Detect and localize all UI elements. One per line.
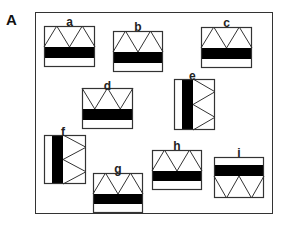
tile-label-b: b [134, 21, 141, 33]
tile-h [152, 150, 202, 190]
tile-label-f: f [61, 126, 65, 138]
tile-e [174, 79, 215, 130]
tile-i [214, 157, 264, 198]
tile-pattern-icon [214, 157, 264, 198]
tile-d [82, 88, 133, 129]
tile-pattern-icon [82, 88, 133, 129]
tile-pattern-icon [201, 27, 252, 68]
tile-a [44, 26, 95, 67]
tile-label-d: d [104, 80, 111, 92]
tile-label-i: i [237, 147, 240, 159]
tile-pattern-icon [44, 26, 95, 67]
tile-b [113, 31, 163, 72]
tile-label-e: e [189, 70, 196, 82]
tile-f [44, 135, 86, 184]
tile-pattern-icon [44, 135, 86, 184]
panel-label: A [6, 11, 17, 28]
tile-pattern-icon [152, 150, 202, 190]
tile-pattern-icon [174, 79, 215, 130]
tile-pattern-icon [113, 31, 163, 72]
tile-pattern-icon [93, 173, 143, 213]
tile-c [201, 27, 252, 68]
tile-label-c: c [223, 17, 230, 29]
tile-label-a: a [66, 16, 73, 28]
tile-label-h: h [173, 140, 180, 152]
tile-label-g: g [114, 163, 121, 175]
tile-g [93, 173, 143, 213]
